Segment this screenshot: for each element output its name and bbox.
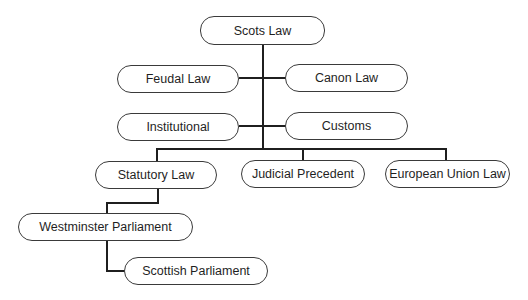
connector-institutional-customs <box>239 125 286 127</box>
node-judicial-precedent: Judicial Precedent <box>241 160 365 188</box>
scots-law-diagram: Scots Law Feudal Law Canon Law Instituti… <box>0 0 528 300</box>
connector-statutory-down <box>157 189 159 203</box>
connector-statutory-left <box>106 202 159 204</box>
node-feudal-law: Feudal Law <box>117 65 239 93</box>
node-customs: Customs <box>285 112 408 140</box>
connector-westminster-down <box>106 241 108 272</box>
connector-feudal-canon <box>239 77 286 79</box>
node-canon-law: Canon Law <box>285 64 408 92</box>
node-scots-law: Scots Law <box>200 16 325 45</box>
node-institutional: Institutional <box>117 113 239 141</box>
node-european-union-law: European Union Law <box>385 160 510 188</box>
connector-to-scottish <box>106 270 125 272</box>
node-westminster-parliament: Westminster Parliament <box>18 213 193 241</box>
connector-to-statutory <box>156 148 158 162</box>
node-scottish-parliament: Scottish Parliament <box>124 257 268 285</box>
node-statutory-law: Statutory Law <box>95 161 217 189</box>
connector-main-sources-bus <box>156 148 446 150</box>
connector-root-trunk <box>262 45 264 149</box>
